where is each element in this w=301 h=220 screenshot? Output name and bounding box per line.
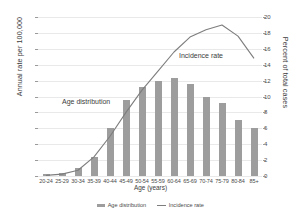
y-tick-mark-right — [263, 112, 266, 113]
y-tick-mark-right — [263, 65, 266, 66]
y-tick-mark-left — [35, 176, 38, 177]
bar-swatch-icon — [97, 204, 105, 207]
y-tick-right: 10 — [264, 94, 288, 100]
y-tick-right: 20 — [264, 14, 288, 20]
y-tick-mark-right — [263, 97, 266, 98]
y-tick-right: 2 — [264, 157, 288, 163]
annotation-incidence-rate: Incidence rate — [179, 52, 223, 59]
y-tick-right: 6 — [264, 125, 288, 131]
annotation-age-distribution: Age distribution — [62, 98, 110, 105]
y-tick-right: 12 — [264, 78, 288, 84]
y-tick-mark-right — [263, 49, 266, 50]
y-tick-right: 8 — [264, 109, 288, 115]
line-series-incidence-rate — [38, 17, 262, 176]
plot-area: 050100150200250300350400450500 024681012… — [38, 17, 262, 176]
legend-item-age-distribution: Age distribution — [97, 202, 146, 208]
y-tick-mark-right — [263, 176, 266, 177]
legend-label-incidence-rate: Incidence rate — [169, 202, 204, 208]
y-axis-left-title: Annual rate per 100,000 — [15, 7, 24, 107]
x-axis-title: Age (years) — [0, 184, 301, 191]
y-tick-mark-right — [263, 144, 266, 145]
y-tick-mark-right — [263, 160, 266, 161]
chart-legend: Age distribution Incidence rate — [0, 202, 301, 208]
y-tick-right: 14 — [264, 62, 288, 68]
legend-item-incidence-rate: Incidence rate — [157, 202, 204, 208]
y-tick-mark-right — [263, 17, 266, 18]
chart-container: Annual rate per 100,000 Percent of total… — [0, 0, 301, 220]
y-tick-mark-right — [263, 128, 266, 129]
legend-label-age-distribution: Age distribution — [108, 202, 147, 208]
y-tick-mark-right — [263, 81, 266, 82]
y-tick-right: 18 — [264, 30, 288, 36]
y-axis-right-title: Percent of total cases — [281, 23, 290, 123]
gridline — [38, 176, 262, 177]
y-tick-right: 4 — [264, 141, 288, 147]
line-swatch-icon — [157, 205, 166, 206]
y-tick-right: 0 — [264, 173, 288, 179]
y-tick-mark-right — [263, 33, 266, 34]
y-tick-right: 16 — [264, 46, 288, 52]
